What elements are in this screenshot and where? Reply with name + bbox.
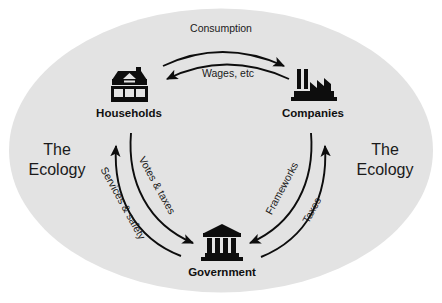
flow-label-consumption: Consumption bbox=[190, 22, 252, 34]
circular-flow-diagram: Consumption Wages, etc Votes & taxes Ser… bbox=[0, 0, 442, 303]
node-label-companies: Companies bbox=[282, 107, 344, 119]
node-label-government: Government bbox=[188, 266, 256, 278]
flow-label-wages: Wages, etc bbox=[202, 67, 254, 79]
ecology-left-line2: Ecology bbox=[29, 161, 86, 178]
ecology-right-line1: The bbox=[371, 141, 399, 158]
diagram-canvas: Consumption Wages, etc Votes & taxes Ser… bbox=[0, 0, 442, 303]
ecology-right-line2: Ecology bbox=[357, 161, 414, 178]
node-label-households: Households bbox=[96, 107, 162, 119]
ecology-left-line1: The bbox=[43, 141, 71, 158]
